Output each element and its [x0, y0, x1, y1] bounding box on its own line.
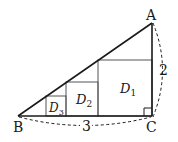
- square-label-d1: D1: [119, 81, 136, 98]
- triangle-diagram: A B C 2 3 D1 D2 D3: [0, 0, 178, 142]
- square-label-d2: D2: [75, 92, 92, 109]
- vertex-label-b: B: [13, 119, 23, 135]
- square-label-d3: D3: [48, 101, 64, 117]
- side-length-bc: 3: [82, 118, 91, 134]
- vertex-label-a: A: [145, 7, 157, 23]
- side-length-ac: 2: [159, 62, 168, 78]
- vertex-label-c: C: [146, 119, 157, 135]
- right-angle-marker: [144, 108, 152, 116]
